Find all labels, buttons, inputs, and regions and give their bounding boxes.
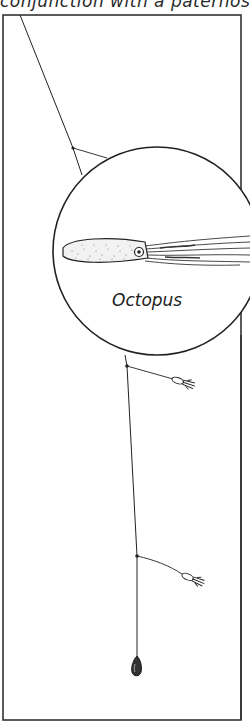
frame-border <box>3 15 241 720</box>
leader-to-circle <box>73 148 107 158</box>
main-line-lower <box>125 355 137 656</box>
squid-lure-icon <box>180 570 206 588</box>
rig-diagram: Octopus <box>0 0 250 723</box>
squid-lure-icon <box>171 374 197 391</box>
main-line-upper <box>20 15 82 175</box>
sinker-icon <box>132 656 142 676</box>
dropper-line-1 <box>127 366 173 379</box>
inset-label: Octopus <box>112 290 182 310</box>
dropper-line-2 <box>137 556 182 574</box>
